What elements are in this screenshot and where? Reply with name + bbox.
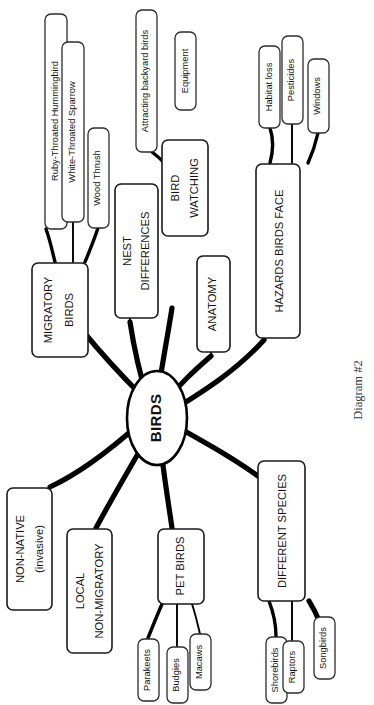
edge-petbirds-macaws xyxy=(192,604,200,634)
non-native-label-line1: NON-NATIVE xyxy=(14,515,26,583)
center-label: BIRDS xyxy=(147,394,164,443)
habitat-loss-label: Habitat loss xyxy=(264,62,274,111)
attracting-backyard-birds-label: Attracting backyard birds xyxy=(140,29,150,132)
woodthrush-label: Wood Thrush xyxy=(92,150,102,205)
edge-migratory-hummingbird xyxy=(46,229,55,262)
node-macaws[interactable]: Macaws xyxy=(190,634,211,690)
node-pesticides[interactable]: Pesticides xyxy=(282,36,303,124)
migratory-birds-label-line1: MIGRATORY xyxy=(42,276,54,343)
non-native-label-line2: (invasive) xyxy=(33,525,45,573)
node-migratory-birds[interactable]: MIGRATORY BIRDS xyxy=(32,263,88,357)
mindmap-svg: BIRDS MIGRATORY BIRDS Ruby-Throated Humm… xyxy=(0,0,374,705)
bird-watching-label-line1: BIRD xyxy=(169,175,181,202)
edge-petbirds-parakeets xyxy=(148,604,162,638)
node-equipment[interactable]: Equipment xyxy=(175,32,196,110)
local-non-migratory-label-line2: NON-MIGRATORY xyxy=(93,543,105,639)
node-songbirds[interactable]: Songbirds xyxy=(314,617,335,679)
nest-differences-label-line1: NEST xyxy=(121,236,133,266)
node-attracting-backyard-birds[interactable]: Attracting backyard birds xyxy=(136,10,157,152)
anatomy-label: ANATOMY xyxy=(206,276,218,331)
edge-migratory-woodthrush xyxy=(85,228,98,262)
edge-hazards-windows xyxy=(308,133,318,163)
diagram-caption: Diagram #2 xyxy=(351,360,365,419)
local-non-migratory-label-line1: LOCAL xyxy=(74,573,86,610)
migratory-birds-label-line2: BIRDS xyxy=(63,293,75,327)
shorebirds-label: Shorebirds xyxy=(270,647,280,692)
node-bird-watching[interactable]: BIRD WATCHING xyxy=(162,140,208,236)
hazards-birds-face-label: HAZARDS BIRDS FACE xyxy=(273,189,285,312)
node-wood-thrush[interactable]: Wood Thrush xyxy=(88,128,109,228)
migratory-birds-box xyxy=(32,263,88,357)
edge-hazards-habitatloss xyxy=(270,128,273,163)
equipment-label: Equipment xyxy=(180,48,190,93)
node-hazards-birds-face[interactable]: HAZARDS BIRDS FACE xyxy=(256,164,300,338)
raptors-label: Raptors xyxy=(287,650,297,683)
pesticides-label: Pesticides xyxy=(286,58,296,101)
pet-birds-label: PET BIRDS xyxy=(174,537,186,596)
songbirds-label: Songbirds xyxy=(318,627,328,669)
node-different-species[interactable]: DIFFERENT SPECIES xyxy=(258,461,305,601)
node-raptors[interactable]: Raptors xyxy=(283,641,304,693)
mindmap-canvas: BIRDS MIGRATORY BIRDS Ruby-Throated Humm… xyxy=(0,0,374,705)
node-habitat-loss[interactable]: Habitat loss xyxy=(259,46,280,128)
windows-label: Windows xyxy=(312,77,322,115)
bird-watching-label-line2: WATCHING xyxy=(188,158,200,218)
node-nest-differences[interactable]: NEST DIFFERENCES xyxy=(115,184,158,318)
node-parakeets[interactable]: Parakeets xyxy=(138,639,159,701)
node-windows[interactable]: Windows xyxy=(308,59,329,133)
different-species-label: DIFFERENT SPECIES xyxy=(276,474,288,588)
edge-species-shorebirds xyxy=(269,601,276,636)
node-white-throated-sparrow[interactable]: White-Throated Sparrow xyxy=(62,42,84,222)
nest-differences-label-line2: DIFFERENCES xyxy=(139,212,151,291)
hummingbird-label: Ruby-Throated Hummingbird xyxy=(50,61,60,181)
node-non-native-invasive[interactable]: NON-NATIVE (invasive) xyxy=(7,488,52,610)
node-anatomy[interactable]: ANATOMY xyxy=(197,256,230,352)
node-local-non-migratory[interactable]: LOCAL NON-MIGRATORY xyxy=(67,529,112,653)
node-birds-center[interactable]: BIRDS xyxy=(127,371,187,465)
node-budgies[interactable]: Budgies xyxy=(167,647,188,703)
budgies-label: Budgies xyxy=(171,658,181,692)
parakeets-label: Parakeets xyxy=(142,649,152,691)
macaws-label: Macaws xyxy=(194,645,204,679)
sparrow-label: White-Throated Sparrow xyxy=(67,81,77,183)
node-pet-birds[interactable]: PET BIRDS xyxy=(158,529,204,604)
